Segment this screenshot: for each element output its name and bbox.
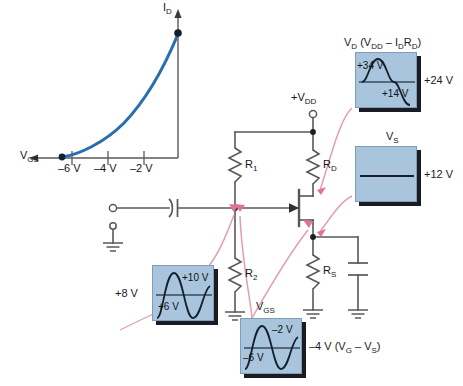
waveform-dc-label-vg: +8 V bbox=[115, 287, 138, 299]
resistor-label-rd: RD bbox=[323, 159, 337, 173]
waveform-peak-label-vg: +10 V bbox=[182, 272, 208, 283]
waveform-trough-label-vg: +6 V bbox=[158, 301, 179, 312]
waveform-vs-plot bbox=[356, 147, 418, 203]
resistor-label-r1: R1 bbox=[245, 159, 257, 173]
waveform-dc-label-vs: +12 V bbox=[424, 168, 453, 180]
input-ground-terminal bbox=[110, 223, 116, 229]
waveform-trough-label-vd: +14 V bbox=[382, 88, 408, 99]
resistor-label-r2: R2 bbox=[245, 268, 257, 282]
graph-tick-label-0: –6 V bbox=[58, 163, 81, 174]
waveform-dc-label-vgs: –4 V (VG – VS) bbox=[309, 340, 381, 355]
vdd-terminal bbox=[309, 110, 316, 117]
transfer-characteristic-curve bbox=[62, 34, 178, 157]
graph-x-axis-label: VGS bbox=[20, 150, 39, 164]
figure-canvas: ID VGS –6 V –4 V –2 V +VDD R1 RD R2 RS V… bbox=[0, 0, 463, 386]
waveform-box-vs bbox=[355, 146, 417, 202]
leader-vs bbox=[320, 196, 352, 232]
waveform-dc-label-vd: +24 V bbox=[424, 74, 453, 86]
leader-arrowheads bbox=[229, 187, 326, 237]
waveform-peak-label-vd: +34 V bbox=[357, 60, 383, 71]
jfet-gate-arrow bbox=[289, 203, 299, 213]
graph-tick-label-1: –4 V bbox=[94, 163, 117, 174]
bypass-capacitor bbox=[348, 263, 368, 275]
graph-endpoint-dots bbox=[59, 29, 182, 160]
waveform-trough-label-vgs: –6 V bbox=[243, 352, 264, 363]
waveform-title-vs: VS bbox=[386, 130, 399, 145]
vdd-supply-label: +VDD bbox=[291, 92, 316, 106]
waveform-title-vgs: VGS bbox=[256, 300, 275, 315]
input-terminal bbox=[109, 204, 116, 211]
resistor-label-rs: RS bbox=[323, 265, 336, 279]
graph-tick-label-2: –2 V bbox=[130, 163, 153, 174]
graph-y-axis-label: ID bbox=[163, 2, 172, 16]
coupling-capacitor bbox=[169, 199, 178, 217]
leader-vd bbox=[320, 108, 352, 190]
waveform-peak-label-vgs: –2 V bbox=[272, 324, 293, 335]
junction-dots bbox=[232, 129, 316, 240]
waveform-title-vd: VD (VDD – IDRD) bbox=[344, 36, 421, 51]
